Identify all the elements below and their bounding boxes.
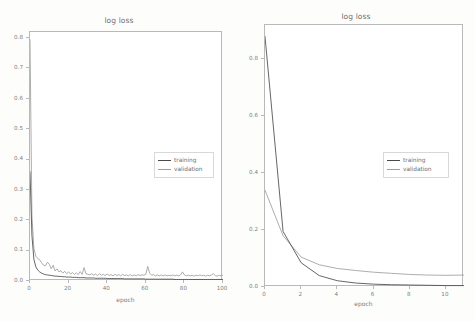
x-tick-mark (29, 280, 30, 283)
legend-item-validation[interactable]: validation (387, 165, 444, 174)
x-tick-label: 80 (173, 285, 193, 291)
x-tick-label: 0 (19, 285, 39, 291)
x-tick-mark (264, 286, 265, 289)
x-tick-mark (145, 280, 146, 283)
chart-left: log loss 0.00.10.20.30.40.50.60.70.80204… (0, 0, 238, 321)
y-tick-mark (261, 229, 264, 230)
x-tick-label: 6 (363, 291, 383, 297)
x-tick-label: 40 (96, 285, 116, 291)
y-tick-label: 0.6 (237, 112, 258, 118)
legend-item-validation[interactable]: validation (158, 165, 209, 174)
x-tick-label: 20 (58, 285, 78, 291)
y-tick-mark (26, 128, 29, 129)
y-tick-mark (26, 67, 29, 68)
y-tick-mark (261, 58, 264, 59)
series-line-validation (265, 190, 464, 275)
x-tick-mark (300, 286, 301, 289)
chart-right: log loss 0.00.20.40.60.80246810 epoch tr… (237, 0, 475, 321)
y-tick-label: 0.7 (2, 64, 23, 70)
y-tick-mark (26, 98, 29, 99)
y-tick-label: 0.1 (2, 246, 23, 252)
x-tick-label: 60 (135, 285, 155, 291)
y-tick-mark (26, 219, 29, 220)
x-tick-mark (183, 280, 184, 283)
x-tick-mark (222, 280, 223, 283)
y-tick-label: 0.4 (237, 169, 258, 175)
series-line-training (30, 172, 223, 280)
y-tick-label: 0.8 (237, 55, 258, 61)
y-tick-label: 0.2 (237, 226, 258, 232)
x-tick-mark (409, 286, 410, 289)
legend-label: training (174, 156, 196, 165)
x-tick-label: 10 (435, 291, 455, 297)
y-tick-label: 0.5 (2, 125, 23, 131)
x-tick-mark (336, 286, 337, 289)
legend-item-training[interactable]: training (387, 156, 444, 165)
y-tick-mark (26, 250, 29, 251)
y-tick-mark (26, 37, 29, 38)
legend-item-training[interactable]: training (158, 156, 209, 165)
legend-label: training (403, 156, 425, 165)
y-tick-label: 0.3 (2, 186, 23, 192)
y-tick-label: 0.6 (2, 95, 23, 101)
chart-left-title: log loss (0, 16, 238, 25)
chart-left-legend[interactable]: trainingvalidation (154, 152, 214, 178)
x-tick-label: 2 (290, 291, 310, 297)
x-tick-label: 0 (254, 291, 274, 297)
x-tick-label: 8 (399, 291, 419, 297)
y-tick-label: 0.4 (2, 155, 23, 161)
y-tick-label: 0.0 (2, 277, 23, 283)
y-tick-mark (261, 172, 264, 173)
chart-right-title: log loss (237, 12, 475, 21)
x-tick-label: 100 (212, 285, 232, 291)
x-tick-mark (445, 286, 446, 289)
chart-right-xlabel: epoch (264, 300, 463, 307)
x-tick-label: 4 (326, 291, 346, 297)
legend-label: validation (403, 165, 432, 174)
y-tick-mark (26, 159, 29, 160)
y-tick-mark (26, 189, 29, 190)
y-tick-label: 0.0 (237, 283, 258, 289)
x-tick-mark (373, 286, 374, 289)
x-tick-mark (106, 280, 107, 283)
figure-canvas: log loss 0.00.10.20.30.40.50.60.70.80204… (0, 0, 475, 321)
legend-swatch-training (158, 160, 171, 161)
chart-right-legend[interactable]: trainingvalidation (383, 152, 449, 178)
x-tick-mark (68, 280, 69, 283)
y-tick-label: 0.2 (2, 216, 23, 222)
legend-swatch-validation (387, 169, 400, 170)
y-tick-label: 0.8 (2, 34, 23, 40)
chart-left-xlabel: epoch (29, 296, 222, 303)
y-tick-mark (261, 115, 264, 116)
legend-swatch-training (387, 160, 400, 161)
legend-label: validation (174, 165, 203, 174)
legend-swatch-validation (158, 169, 171, 170)
